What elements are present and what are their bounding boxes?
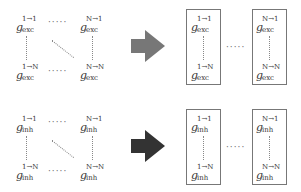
exc-term-bottom-left: g1→Nexc: [16, 70, 23, 81]
exc-hdots-top: ·····: [48, 17, 67, 27]
exc-col2-vdots: [269, 36, 272, 60]
inh-col2-bottom: gN→Ninh: [256, 170, 263, 181]
inh-vdots-right: [92, 136, 95, 160]
exc-arrow-icon: [131, 30, 165, 62]
inh-term-bottom-right: gN→Ninh: [80, 170, 87, 181]
exc-term-top-right: gN→1exc: [80, 22, 87, 33]
inh-hdots-top: ·····: [48, 117, 67, 127]
inh-term-bottom-left: g1→Ninh: [16, 170, 23, 181]
exc-ddots: [51, 40, 74, 59]
inh-col2-top: gN→1inh: [256, 122, 263, 133]
inh-ddots: [51, 140, 74, 159]
exc-col1-vdots: [203, 36, 206, 60]
inh-term-top-right: gN→1inh: [80, 122, 87, 133]
inh-col1-bottom: g1→Ninh: [191, 170, 198, 181]
exc-vdots-left: [26, 36, 29, 60]
exc-vdots-right: [92, 36, 95, 60]
inh-arrow-icon: [131, 130, 165, 162]
diagram: g1→1exc ····· gN→1exc g1→Nexc ····· gN→N…: [0, 0, 301, 192]
exc-col2-bottom: gN→Nexc: [256, 70, 263, 81]
inh-columns-hdots: ·····: [226, 142, 245, 152]
exc-col2-top: gN→1exc: [256, 22, 263, 33]
inh-term-top-left: g1→1inh: [16, 122, 23, 133]
inh-hdots-bottom: ·····: [48, 166, 67, 176]
exc-hdots-bottom: ·····: [48, 66, 67, 76]
inh-col1-top: g1→1inh: [191, 122, 198, 133]
exc-col1-bottom: g1→Nexc: [191, 70, 198, 81]
exc-term-bottom-right: gN→Nexc: [80, 70, 87, 81]
exc-col1-top: g1→1exc: [191, 22, 198, 33]
inh-col2-vdots: [269, 136, 272, 160]
inh-col1-vdots: [203, 136, 206, 160]
inh-vdots-left: [26, 136, 29, 160]
exc-term-top-left: g1→1exc: [16, 22, 23, 33]
exc-columns-hdots: ·····: [226, 42, 245, 52]
